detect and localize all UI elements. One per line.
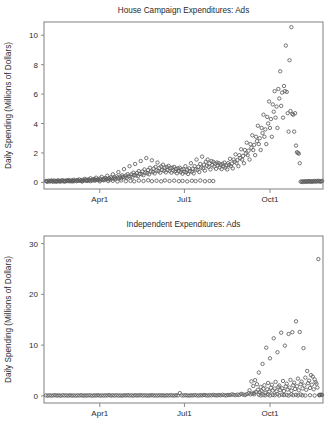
data-point	[214, 167, 217, 170]
data-point	[146, 179, 149, 182]
chart-panel-house-campaign: House Campaign Expenditures: AdsDaily Sp…	[0, 0, 334, 214]
data-point	[203, 180, 206, 183]
data-point	[274, 116, 277, 119]
data-point	[139, 159, 142, 162]
data-point	[272, 110, 275, 113]
data-point	[251, 134, 254, 137]
data-point	[163, 179, 166, 182]
data-point	[150, 159, 153, 162]
x-tick-label: Oct1	[262, 195, 279, 204]
data-point	[295, 385, 298, 388]
data-point	[177, 180, 180, 183]
data-point	[173, 179, 176, 182]
data-point	[264, 128, 267, 131]
y-tick-label: 10	[29, 31, 38, 40]
data-point	[272, 337, 275, 340]
data-point	[308, 386, 311, 389]
data-point	[117, 170, 120, 173]
data-point	[184, 164, 187, 167]
data-point	[186, 180, 189, 183]
data-point	[252, 384, 255, 387]
data-point	[261, 362, 264, 365]
scatter-plot-house-campaign: House Campaign Expenditures: AdsDaily Sp…	[0, 0, 334, 214]
data-point	[168, 179, 171, 182]
data-point	[305, 388, 308, 391]
data-point	[294, 320, 297, 323]
plot-frame	[44, 236, 323, 403]
data-point	[257, 142, 260, 145]
x-tick-label: Jul1	[177, 409, 192, 418]
x-tick-label: Apr1	[91, 409, 108, 418]
data-point	[312, 388, 315, 391]
data-point	[310, 383, 313, 386]
data-point	[249, 142, 252, 145]
data-point	[290, 25, 293, 28]
data-point	[282, 84, 285, 87]
data-point	[199, 179, 202, 182]
data-point	[133, 162, 136, 165]
data-point	[256, 124, 259, 127]
data-point	[200, 155, 203, 158]
data-point	[278, 97, 281, 100]
y-tick-label: 0	[34, 178, 39, 187]
data-point	[287, 130, 290, 133]
data-point	[276, 126, 279, 129]
data-point	[261, 131, 264, 134]
data-point	[194, 179, 197, 182]
data-point	[133, 180, 136, 183]
data-point	[266, 381, 269, 384]
data-point	[287, 332, 290, 335]
y-tick-label: 30	[29, 240, 38, 249]
data-point	[267, 100, 270, 103]
data-point	[258, 137, 261, 140]
data-point	[212, 179, 215, 182]
data-point	[253, 378, 256, 381]
data-point	[255, 383, 258, 386]
data-point	[308, 394, 311, 397]
data-point	[282, 389, 285, 392]
data-point	[266, 122, 269, 125]
data-point	[265, 346, 268, 349]
data-point	[245, 141, 248, 144]
data-point	[257, 371, 260, 374]
data-point	[150, 180, 153, 183]
data-point	[122, 167, 125, 170]
data-point-group	[44, 257, 324, 397]
data-point	[137, 179, 140, 182]
y-tick-label: 4	[34, 120, 39, 129]
data-point	[250, 380, 253, 383]
data-point	[263, 384, 266, 387]
y-tick-label: 20	[29, 290, 38, 299]
data-point	[181, 179, 184, 182]
data-point	[279, 331, 282, 334]
data-point	[209, 168, 212, 171]
x-tick-label: Oct1	[262, 409, 279, 418]
chart-title: House Campaign Expenditures: Ads	[118, 6, 250, 15]
chart-panel-independent-expenditures: Independent Expenditures: AdsDaily Spend…	[0, 214, 334, 427]
data-point	[265, 142, 268, 145]
data-point	[145, 156, 148, 159]
y-tick-label: 6	[34, 90, 39, 99]
data-point	[116, 180, 119, 183]
data-point	[242, 162, 245, 165]
data-point	[159, 180, 162, 183]
data-point	[284, 44, 287, 47]
data-point	[270, 135, 273, 138]
data-point	[155, 179, 158, 182]
data-point	[253, 153, 256, 156]
x-tick-label: Apr1	[91, 195, 108, 204]
figure-page: House Campaign Expenditures: AdsDaily Sp…	[0, 0, 334, 427]
data-point	[237, 164, 240, 167]
data-point	[277, 87, 280, 90]
data-point	[269, 117, 272, 120]
data-point	[316, 386, 319, 389]
data-point	[294, 144, 297, 147]
data-point	[142, 179, 145, 182]
data-point	[290, 389, 293, 392]
data-point	[279, 70, 282, 73]
data-point	[156, 161, 159, 164]
data-point	[289, 378, 292, 381]
y-tick-label: 10	[29, 341, 38, 350]
data-point	[234, 153, 237, 156]
data-point	[273, 89, 276, 92]
